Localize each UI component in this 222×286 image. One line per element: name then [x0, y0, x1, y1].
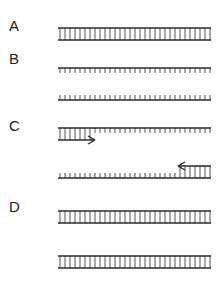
panel-d-two-copies	[58, 211, 211, 268]
panel-c-primed-strands	[58, 128, 211, 178]
panel-a-double-strand	[58, 28, 211, 40]
dna-strands-canvas	[0, 0, 222, 286]
panel-b-separated-strands	[58, 68, 211, 100]
